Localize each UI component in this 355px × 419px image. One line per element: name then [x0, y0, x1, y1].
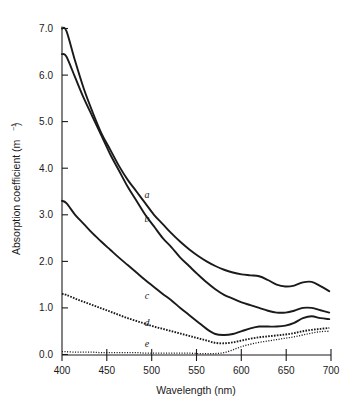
x-tick-label: 400 [54, 365, 71, 376]
x-tick-label: 450 [98, 365, 115, 376]
y-tick-label: 1.0 [39, 302, 53, 313]
y-tick-label: 3.0 [39, 209, 53, 220]
curve-label-c: c [145, 290, 150, 301]
absorption-spectra-chart: Absorption coefficient (m −1 ) 7.0 6.0 5… [0, 0, 355, 419]
y-tick-label: 2.0 [39, 256, 53, 267]
curve-label-a: a [144, 189, 149, 200]
y-tick-label: 7.0 [39, 23, 53, 34]
x-tick-label: 500 [143, 365, 160, 376]
x-axis-title: Wavelength (nm) [156, 384, 236, 396]
y-axis-title-close-paren: ) [10, 123, 22, 127]
y-tick-label: 0.0 [39, 349, 53, 360]
y-tick-label: 4.0 [39, 163, 53, 174]
x-tick-label: 550 [188, 365, 205, 376]
x-tick-label: 650 [278, 365, 295, 376]
x-tick-label: 600 [233, 365, 250, 376]
y-tick-label: 5.0 [39, 116, 53, 127]
curve-label-e: e [145, 338, 150, 349]
x-tick-label: 700 [323, 365, 340, 376]
y-axis-title: Absorption coefficient (m −1 ) [10, 123, 23, 256]
chart-background [0, 0, 355, 419]
curve-label-b: b [144, 213, 149, 224]
y-axis-title-text: Absorption coefficient (m [10, 139, 22, 255]
y-tick-label: 6.0 [39, 70, 53, 81]
